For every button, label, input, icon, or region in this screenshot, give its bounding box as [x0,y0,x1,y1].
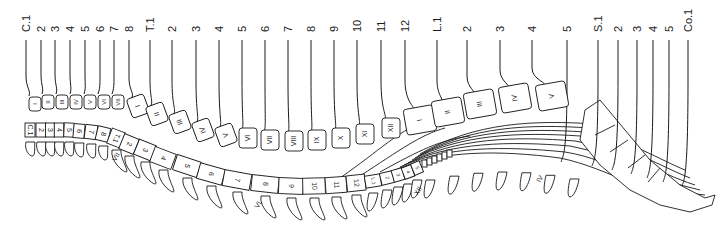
spinous-process [159,170,174,192]
nerve-label: 3 [190,26,202,32]
nerve-label: 7 [282,26,294,32]
vertebral-body: XI [356,124,374,144]
spinous-process [568,179,579,197]
spinous-process [352,195,367,217]
nerve-label: 2 [612,26,624,32]
nerve-root-line [84,40,85,94]
nerve-label: L.1 [431,17,443,32]
spinous-process [472,173,483,191]
spinous-process [75,143,84,157]
spinous-process [367,193,378,211]
spinous-process [99,146,108,160]
vertebral-body: IV [70,95,82,109]
spinous-process [496,172,507,190]
nerve-label: 2 [35,26,47,32]
sacrum-coccyx [580,100,715,212]
cord-segment: 9 [278,178,303,195]
spinous-process [26,142,35,156]
nerve-label: 7 [108,26,120,32]
cord-segment: 2 [36,123,46,137]
vertebra-numeral: III [59,99,65,104]
segment-label: 12 [353,179,361,188]
sacral-cord-segment [422,160,427,167]
nerve-label: 5 [663,26,675,32]
nerve-label: 2 [166,26,178,32]
spinous-process [46,142,55,156]
spinal-segment-diagram: C.12345678T.123456789101112L.12345S.1234… [0,0,726,226]
spinous-process [37,142,46,156]
nerve-label: 2 [461,26,473,32]
nerve-root-line [55,40,57,94]
spinous-process [141,162,156,184]
sacral-cord-segment [447,150,452,157]
vertebra-numeral: VIII [290,136,297,147]
nerve-label: 4 [64,26,76,32]
spinous-label: IV [535,174,545,184]
vertebra-numeral: X [337,135,344,140]
cord-segment: 8 [251,175,280,194]
nerve-label: 8 [123,26,135,32]
segment-label: 6 [76,129,83,134]
nerve-label: 9 [328,26,340,32]
vertebral-body: V [214,123,238,148]
nerve-label: S.1 [592,15,604,32]
vertebral-body: I [29,97,41,111]
nerve-label: 3 [49,26,61,32]
spinous-process [287,198,302,220]
segment-label: C.1 [27,125,34,136]
nerve-root-line [357,40,360,126]
nerve-root-line [467,40,474,96]
vertebral-body: IV [498,83,532,114]
spinous-process [55,142,64,156]
sacral-cord-segment [437,154,442,161]
nerve-label: 8 [305,26,317,32]
nerve-root-line [500,40,509,90]
nerve-label: 5 [561,26,573,32]
nerve-root-line [311,40,312,132]
nerve-root-line [437,40,442,104]
vertebra-numeral: V [87,100,93,104]
nerve-label: 4 [526,26,538,32]
segment-label: 10 [311,182,318,190]
vertebra-numeral: XI [361,131,368,138]
vertebral-body: III [463,89,497,120]
cord-segment: 12 [346,174,366,192]
nerve-root-line [70,40,71,94]
nerve-root-line [196,40,198,122]
nerve-label: 10 [351,20,363,32]
cord-segment: 7 [222,170,252,191]
spinous-process [392,187,403,205]
vertebral-body: III [168,110,192,135]
nerve-root-line [334,40,336,130]
nerve-root-line [288,40,289,133]
vertebral-body: II [431,97,465,128]
nerve-root-line [150,40,152,106]
nerve-label: 3 [494,26,506,32]
nerve-root-line [112,40,114,94]
nerve-root-line [98,40,100,94]
spinous-process [87,144,96,158]
sacral-cord-segment [432,156,437,163]
vertebral-body: I [126,94,150,119]
nerve-label: T.1 [144,17,156,32]
spinous-process [183,178,198,200]
vertebral-body: II [42,95,54,109]
vertebra-numeral: VI [244,135,251,142]
vertebra-numeral: VII [266,136,273,145]
segment-label: 5 [66,128,73,132]
spinal-nerve-labels: C.12345678T.123456789101112L.12345S.1234… [20,9,694,32]
nerve-root-line [405,40,414,112]
cord-segment: 10 [303,178,326,194]
vertebra-numeral: VI [101,99,107,105]
nerve-label: 6 [94,26,106,32]
spinous-process [381,190,392,208]
nerve-label: 4 [647,26,659,32]
spinous-process [125,156,140,178]
cord-segment: 6 [196,163,225,185]
nerve-label: 5 [236,26,248,32]
nerve-label: 11 [375,21,387,32]
vertebral-body: X [332,128,350,148]
cord-segment: 4 [150,147,177,170]
nerve-root-line [129,40,132,98]
vertebral-body: VI [98,95,110,109]
